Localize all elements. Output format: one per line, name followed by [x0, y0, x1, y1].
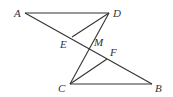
geometry-diagram: A D E M F C B	[0, 0, 173, 97]
labels-group: A D E M F C B	[13, 7, 162, 94]
point-label-m: M	[93, 36, 104, 48]
point-label-b: B	[155, 82, 162, 94]
segment-DE	[72, 13, 109, 37]
point-label-d: D	[112, 7, 121, 19]
point-label-e: E	[59, 38, 67, 50]
segment-AB	[25, 13, 152, 84]
point-label-c: C	[58, 82, 66, 94]
point-label-a: A	[13, 7, 21, 19]
segment-DC	[70, 13, 109, 84]
segment-CF	[70, 59, 107, 84]
point-label-f: F	[109, 46, 117, 58]
segments-group	[25, 13, 152, 84]
